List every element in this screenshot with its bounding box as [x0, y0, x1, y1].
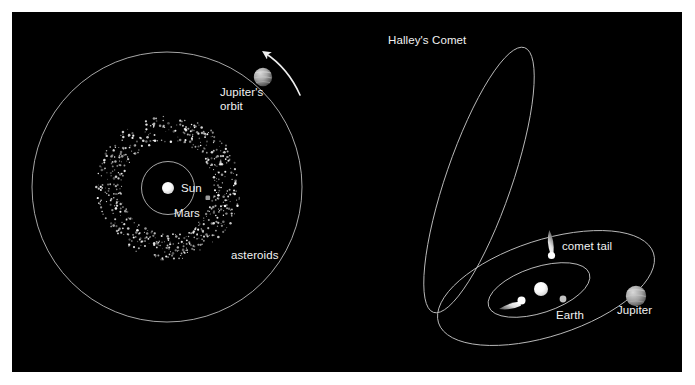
earth-body	[560, 296, 567, 303]
halleys-comet-label: Halley's Comet	[388, 34, 467, 46]
sun-body	[162, 182, 174, 194]
jupiter-orbit-label-line1: Jupiter's	[220, 86, 264, 98]
diagram-canvas: Sun Mars asteroids Jupiter's orbit	[0, 0, 695, 385]
right-jupiter-label: Jupiter	[617, 304, 652, 316]
right-sun-body	[534, 282, 548, 296]
mars-body	[206, 196, 211, 201]
asteroids-label: asteroids	[231, 249, 279, 261]
sun-label: Sun	[181, 182, 202, 194]
earth-label: Earth	[556, 309, 584, 321]
astronomy-figure: Sun Mars asteroids Jupiter's orbit	[0, 0, 695, 385]
comet-tail-label: comet tail	[562, 240, 612, 252]
mars-label: Mars	[174, 207, 200, 219]
jupiter-orbit-label-line2: orbit	[220, 100, 244, 112]
